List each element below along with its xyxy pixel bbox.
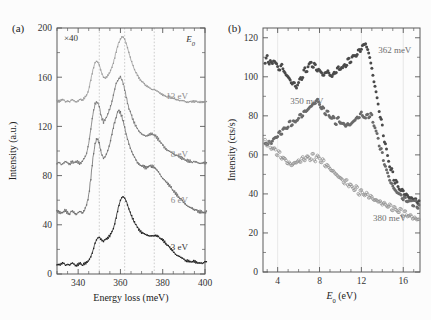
data-marker [114,223,115,224]
data-point [412,205,415,208]
data-marker [58,100,59,101]
data-marker [99,64,100,65]
data-marker [68,213,69,214]
data-marker [80,163,81,164]
data-marker [145,84,146,85]
data-marker [138,130,139,131]
data-marker [162,95,163,96]
data-marker [165,243,166,244]
data-point [296,83,299,86]
data-marker [59,264,60,265]
data-marker [99,142,100,143]
data-point [301,76,304,79]
data-marker [86,261,87,262]
data-marker [100,149,101,150]
data-marker [90,256,91,257]
data-marker [96,101,97,102]
data-marker [190,261,191,262]
data-marker [123,36,124,37]
data-marker [125,201,126,202]
data-marker [118,110,119,111]
data-marker [123,196,124,197]
data-marker [77,101,78,102]
curve-label-380-meV: 380 meV [373,213,407,223]
data-marker [189,261,190,262]
data-marker [103,241,104,242]
data-marker [134,69,135,70]
data-marker [138,230,139,231]
data-marker [206,162,207,163]
data-marker [82,265,83,266]
data-point [275,62,278,65]
data-marker [104,239,105,240]
data-marker [149,87,150,88]
y-axis-title-b: Intensity (cts/s) [226,119,238,181]
data-marker [168,245,169,246]
data-marker [89,86,90,87]
data-marker [200,102,201,103]
data-marker [100,69,101,70]
data-marker [140,80,141,81]
data-point [417,199,420,202]
data-point [337,65,340,68]
data-marker [100,114,101,115]
data-marker [66,162,67,163]
x-tick-label-a: 360 [113,278,128,288]
data-marker [175,254,176,255]
data-point [377,102,380,105]
data-marker [56,210,57,211]
data-marker [168,183,169,184]
data-point [360,111,363,114]
data-marker [85,262,86,263]
data-marker [173,192,174,193]
data-point [400,194,403,197]
data-marker [72,160,73,161]
data-marker [110,233,111,234]
data-marker [165,148,166,149]
data-marker [196,261,197,262]
data-marker [159,238,160,239]
data-marker [158,171,159,172]
data-marker [113,128,114,129]
data-marker [176,255,177,256]
data-marker [186,102,187,103]
data-marker [83,263,84,264]
data-marker [182,258,183,259]
data-marker [154,167,155,168]
data-marker [70,263,71,264]
data-marker [197,102,198,103]
y-tick-label-b: 100 [244,72,259,82]
data-marker [73,161,74,162]
data-point [295,86,298,89]
data-marker [159,173,160,174]
data-marker [130,148,131,149]
data-marker [193,100,194,101]
data-marker [132,65,133,66]
data-marker [85,207,86,208]
data-marker [131,151,132,152]
data-marker [117,46,118,47]
data-marker [134,221,135,222]
data-point [395,180,398,183]
y-tick-label-a: 160 [38,73,53,83]
curve-label-6-eV: 6 eV [171,195,189,205]
data-marker [80,99,81,100]
data-marker [141,133,142,134]
data-marker [138,78,139,79]
data-marker [187,261,188,262]
data-point [375,129,378,132]
data-marker [111,134,112,135]
data-marker [135,72,136,73]
data-marker [145,234,146,235]
data-marker [113,63,114,64]
data-marker [187,206,188,207]
data-marker [120,111,121,112]
data-marker [110,140,111,141]
data-marker [87,199,88,200]
data-marker [142,134,143,135]
data-marker [152,167,153,168]
data-marker [206,210,207,211]
data-marker [106,76,107,77]
data-marker [152,134,153,135]
data-point [333,116,336,119]
